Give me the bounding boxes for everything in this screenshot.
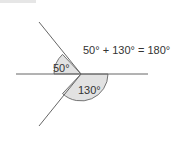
equation-text: 50° + 130° = 180° [83, 44, 170, 56]
angle-50-label: 50° [53, 62, 70, 74]
supplementary-angles-diagram: 50° 130° 50° + 130° = 180° [0, 0, 189, 163]
angle-130-label: 130° [78, 84, 101, 96]
